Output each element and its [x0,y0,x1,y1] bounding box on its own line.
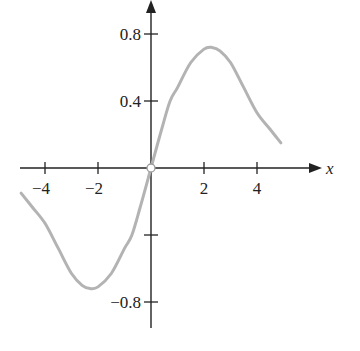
x-tick-label: 4 [253,179,262,198]
x-tick-label: −2 [85,179,103,198]
y-axis-arrow-icon [146,0,156,13]
open-circle-marker [147,164,155,172]
axes [20,0,322,328]
x-tick-label: −4 [32,179,51,198]
x-axis-arrow-icon [309,163,322,173]
x-axis-label: x [325,159,334,178]
x-tick-label: 2 [200,179,209,198]
chart: −4−2240.80.4−0.8 x [0,0,360,351]
annotations [147,164,155,172]
y-tick-label: 0.4 [120,92,142,111]
y-tick-label: −0.8 [110,293,141,312]
y-tick-label: 0.8 [120,25,141,44]
